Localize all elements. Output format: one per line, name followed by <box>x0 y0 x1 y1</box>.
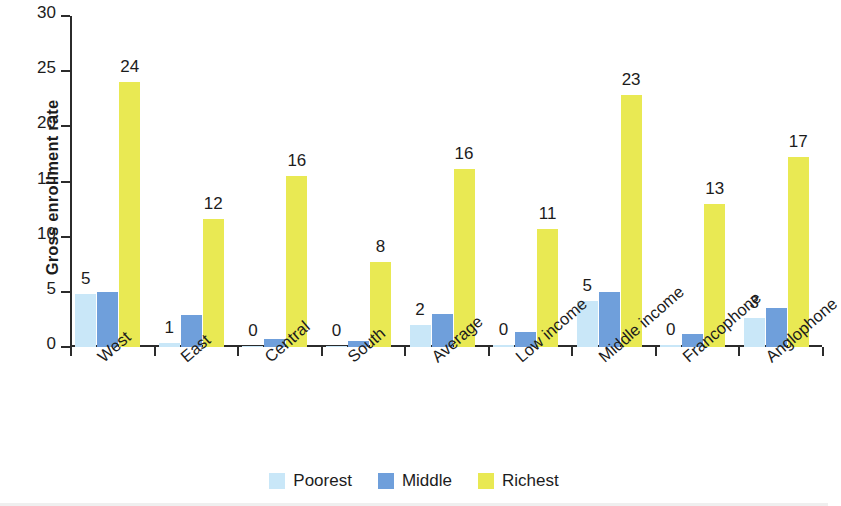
x-tick-mark <box>822 347 824 356</box>
legend-item-middle[interactable]: Middle <box>378 472 452 489</box>
legend-swatch-richest <box>478 473 494 489</box>
legend-label: Poorest <box>293 472 352 489</box>
bar-value-label: 5 <box>63 270 108 287</box>
y-tick-label: 25 <box>37 59 56 76</box>
y-tick-label: 0 <box>47 335 56 352</box>
bar-value-label: 23 <box>609 71 654 88</box>
bar-poorest <box>75 294 96 347</box>
bar-poorest <box>744 318 765 347</box>
legend-item-poorest[interactable]: Poorest <box>269 472 352 489</box>
y-tick-mark <box>61 236 70 238</box>
legend-label: Middle <box>402 472 452 489</box>
bar-poorest <box>159 343 180 347</box>
y-tick-label: 10 <box>37 225 56 242</box>
bar-poorest <box>493 345 514 347</box>
bar-richest <box>203 219 224 347</box>
bar-value-label: 8 <box>358 238 403 255</box>
x-axis-category-labels: WestEastCentralSouthAverageLow incomeMid… <box>70 352 822 452</box>
bar-poorest <box>660 345 681 347</box>
bar-group: 112 <box>159 16 224 347</box>
legend-swatch-poorest <box>269 473 285 489</box>
bar-value-label: 11 <box>525 205 570 222</box>
bar-value-label: 24 <box>107 58 152 75</box>
bar-richest <box>621 95 642 347</box>
bar-group: 011 <box>493 16 558 347</box>
bar-group: 08 <box>326 16 391 347</box>
y-tick-mark <box>61 70 70 72</box>
bar-group: 524 <box>75 16 140 347</box>
bar-poorest <box>242 346 263 347</box>
bar-value-label: 13 <box>692 180 737 197</box>
legend-item-richest[interactable]: Richest <box>478 472 559 489</box>
y-tick-mark <box>61 291 70 293</box>
bar-value-label: 17 <box>776 133 821 150</box>
bar-value-label: 0 <box>314 322 359 339</box>
plot-area: 051015202530 52411201608216011523013317 <box>70 16 822 347</box>
bar-poorest <box>410 325 431 347</box>
bar-value-label: 0 <box>230 322 275 339</box>
bar-richest <box>119 82 140 347</box>
legend-swatch-middle <box>378 473 394 489</box>
bar-group: 016 <box>242 16 307 347</box>
bar-value-label: 12 <box>191 195 236 212</box>
bar-value-label: 16 <box>274 152 319 169</box>
y-tick-mark <box>61 346 70 348</box>
chart-legend: PoorestMiddleRichest <box>0 472 828 489</box>
y-tick-mark <box>61 181 70 183</box>
bar-group: 216 <box>410 16 475 347</box>
y-tick-label: 15 <box>37 170 56 187</box>
y-tick-label: 5 <box>47 280 56 297</box>
y-tick-label: 20 <box>37 114 56 131</box>
bar-groups: 52411201608216011523013317 <box>70 16 822 347</box>
bar-group: 523 <box>577 16 642 347</box>
bar-value-label: 16 <box>442 145 487 162</box>
bar-poorest <box>326 346 347 347</box>
legend-label: Richest <box>502 472 559 489</box>
y-tick-label: 30 <box>37 4 56 21</box>
y-tick-mark <box>61 15 70 17</box>
y-tick-mark <box>61 125 70 127</box>
